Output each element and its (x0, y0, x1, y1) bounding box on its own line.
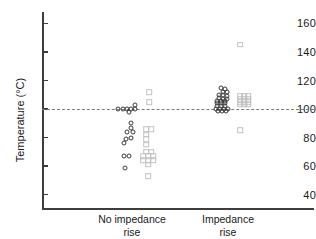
data-point-square (237, 128, 243, 134)
data-point-square (148, 126, 154, 132)
plot-area (42, 12, 314, 209)
x-axis-group-label: Impedancerise (202, 213, 254, 238)
data-point-circle (131, 129, 136, 134)
data-point-circle (133, 102, 138, 107)
group-label-line-2: rise (98, 226, 166, 239)
group-label-line-1: No impedance (98, 213, 166, 226)
x-axis-group-label: No impedancerise (98, 213, 166, 238)
data-point-circle (127, 154, 132, 159)
data-point-circle (127, 109, 132, 114)
data-point-circle (122, 141, 127, 146)
data-point-square (143, 142, 149, 148)
data-point-square (237, 42, 243, 48)
data-point-square (146, 99, 152, 105)
data-point-circle (133, 107, 138, 112)
data-point-square (145, 162, 151, 168)
scatter-chart-figure: Temperature (°C) 406080100120140160 No i… (0, 0, 316, 239)
data-point-circle (125, 129, 130, 134)
data-point-square (150, 158, 156, 164)
y-axis-title: Temperature (°C) (14, 50, 26, 190)
data-point-circle (129, 135, 134, 140)
group-label-line-2: rise (202, 226, 254, 239)
group-label-line-1: Impedance (202, 213, 254, 226)
data-point-circle (224, 108, 229, 113)
data-point-square (145, 173, 151, 179)
data-point-square (245, 102, 251, 108)
reference-line-100c (42, 109, 314, 110)
data-point-square (146, 89, 152, 95)
data-point-circle (123, 165, 128, 170)
